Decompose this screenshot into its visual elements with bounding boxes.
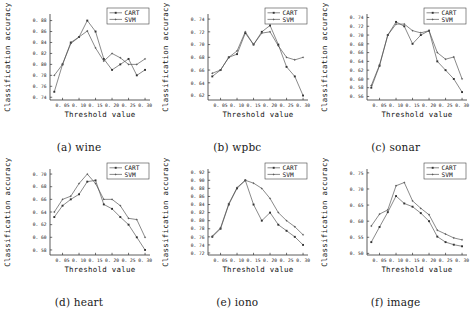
- svg-text:0. 30: 0. 30: [455, 103, 469, 108]
- svg-text:0. 88: 0. 88: [191, 186, 205, 191]
- chart-panel: 0. 720. 740. 760. 780. 800. 820. 840. 86…: [158, 155, 316, 310]
- svg-text:0. 25: 0. 25: [280, 258, 294, 263]
- svg-text:0. 62: 0. 62: [349, 68, 363, 73]
- panel-caption: (c) sonar: [317, 141, 475, 153]
- svg-text:0. 74: 0. 74: [349, 15, 363, 20]
- svg-text:0. 70: 0. 70: [191, 42, 205, 47]
- svg-text:0. 15: 0. 15: [405, 103, 419, 108]
- svg-text:0. 70: 0. 70: [33, 172, 47, 177]
- svg-text:0. 92: 0. 92: [191, 170, 205, 175]
- plot-area: 0. 620. 640. 660. 680. 700. 720. 740. 05…: [158, 0, 316, 132]
- svg-text:0. 75: 0. 75: [349, 171, 363, 176]
- svg-text:Classification accuracy: Classification accuracy: [320, 157, 329, 266]
- panel-caption: (d) heart: [0, 296, 158, 308]
- svg-text:0. 05: 0. 05: [372, 103, 386, 108]
- svg-text:SVM: SVM: [283, 16, 294, 23]
- svg-text:0. 76: 0. 76: [33, 84, 47, 89]
- svg-text:Classification accuracy: Classification accuracy: [3, 157, 12, 266]
- svg-text:0. 10: 0. 10: [230, 103, 244, 108]
- svg-text:0. 66: 0. 66: [191, 68, 205, 73]
- svg-text:0. 80: 0. 80: [191, 218, 205, 223]
- svg-text:0. 15: 0. 15: [247, 103, 261, 108]
- svg-text:0. 74: 0. 74: [33, 95, 47, 100]
- svg-text:0. 25: 0. 25: [438, 103, 452, 108]
- svg-text:0. 65: 0. 65: [349, 203, 363, 208]
- svg-text:Threshold value: Threshold value: [381, 110, 452, 119]
- svg-text:0. 70: 0. 70: [349, 33, 363, 38]
- svg-text:0. 10: 0. 10: [389, 258, 403, 263]
- svg-text:0. 84: 0. 84: [33, 40, 47, 45]
- svg-text:0. 20: 0. 20: [263, 103, 277, 108]
- svg-text:Threshold value: Threshold value: [64, 265, 135, 274]
- svg-text:0. 62: 0. 62: [191, 93, 205, 98]
- svg-text:0. 88: 0. 88: [33, 18, 47, 23]
- svg-text:0. 20: 0. 20: [105, 258, 119, 263]
- svg-text:0. 58: 0. 58: [349, 85, 363, 90]
- svg-text:0. 84: 0. 84: [191, 202, 205, 207]
- figure-grid: 0. 740. 760. 780. 800. 820. 840. 860. 88…: [0, 0, 475, 310]
- svg-text:SVM: SVM: [441, 171, 452, 178]
- plot-area: 0. 500. 550. 600. 650. 700. 750. 050. 10…: [317, 155, 475, 287]
- plot-area: 0. 580. 600. 620. 640. 660. 680. 700. 05…: [0, 155, 158, 287]
- svg-text:0. 10: 0. 10: [389, 103, 403, 108]
- svg-text:0. 82: 0. 82: [33, 51, 47, 56]
- chart-panel: 0. 500. 550. 600. 650. 700. 750. 050. 10…: [317, 155, 475, 310]
- svg-text:Classification accuracy: Classification accuracy: [320, 2, 329, 111]
- svg-text:0. 56: 0. 56: [349, 94, 363, 99]
- svg-text:0. 25: 0. 25: [280, 103, 294, 108]
- svg-text:0. 64: 0. 64: [349, 59, 363, 64]
- svg-text:SVM: SVM: [283, 171, 294, 178]
- svg-text:0. 15: 0. 15: [89, 258, 103, 263]
- svg-text:0. 86: 0. 86: [191, 194, 205, 199]
- svg-text:0. 10: 0. 10: [230, 258, 244, 263]
- svg-text:0. 20: 0. 20: [422, 258, 436, 263]
- svg-text:0. 60: 0. 60: [349, 77, 363, 82]
- svg-text:0. 15: 0. 15: [405, 258, 419, 263]
- svg-text:0. 64: 0. 64: [33, 210, 47, 215]
- svg-text:0. 20: 0. 20: [263, 258, 277, 263]
- svg-text:0. 80: 0. 80: [33, 62, 47, 67]
- svg-text:0. 30: 0. 30: [296, 258, 310, 263]
- svg-text:0. 05: 0. 05: [214, 103, 228, 108]
- svg-text:0. 74: 0. 74: [191, 243, 205, 248]
- plot-area: 0. 740. 760. 780. 800. 820. 840. 860. 88…: [0, 0, 158, 132]
- chart-panel: 0. 620. 640. 660. 680. 700. 720. 740. 05…: [158, 0, 316, 155]
- svg-text:0. 55: 0. 55: [349, 235, 363, 240]
- svg-text:0. 74: 0. 74: [191, 17, 205, 22]
- svg-text:0. 30: 0. 30: [455, 258, 469, 263]
- svg-text:0. 68: 0. 68: [33, 184, 47, 189]
- svg-text:SVM: SVM: [125, 16, 136, 23]
- svg-text:0. 20: 0. 20: [105, 103, 119, 108]
- svg-text:0. 20: 0. 20: [422, 103, 436, 108]
- svg-text:Classification accuracy: Classification accuracy: [161, 157, 170, 266]
- svg-text:0. 10: 0. 10: [72, 258, 86, 263]
- svg-text:0. 50: 0. 50: [349, 251, 363, 256]
- plot-area: 0. 560. 580. 600. 620. 640. 660. 680. 70…: [317, 0, 475, 132]
- svg-text:0. 58: 0. 58: [33, 248, 47, 253]
- svg-text:0. 30: 0. 30: [296, 103, 310, 108]
- svg-text:0. 05: 0. 05: [56, 258, 70, 263]
- plot-area: 0. 720. 740. 760. 780. 800. 820. 840. 86…: [158, 155, 316, 287]
- svg-text:Threshold value: Threshold value: [381, 265, 452, 274]
- svg-text:0. 72: 0. 72: [191, 30, 205, 35]
- chart-panel: 0. 560. 580. 600. 620. 640. 660. 680. 70…: [317, 0, 475, 155]
- svg-text:0. 15: 0. 15: [89, 103, 103, 108]
- svg-text:Threshold value: Threshold value: [64, 110, 135, 119]
- svg-text:Threshold value: Threshold value: [223, 265, 294, 274]
- panel-caption: (a) wine: [0, 141, 158, 153]
- svg-text:0. 15: 0. 15: [247, 258, 261, 263]
- svg-text:0. 05: 0. 05: [372, 258, 386, 263]
- svg-text:0. 82: 0. 82: [191, 210, 205, 215]
- svg-text:0. 60: 0. 60: [33, 235, 47, 240]
- svg-text:0. 25: 0. 25: [122, 103, 136, 108]
- svg-text:0. 86: 0. 86: [33, 29, 47, 34]
- svg-text:0. 25: 0. 25: [122, 258, 136, 263]
- svg-text:0. 25: 0. 25: [438, 258, 452, 263]
- svg-text:0. 62: 0. 62: [33, 222, 47, 227]
- svg-text:0. 30: 0. 30: [138, 258, 152, 263]
- svg-text:0. 30: 0. 30: [138, 103, 152, 108]
- svg-text:0. 70: 0. 70: [349, 187, 363, 192]
- svg-text:0. 64: 0. 64: [191, 81, 205, 86]
- svg-text:Classification accuracy: Classification accuracy: [161, 2, 170, 111]
- svg-text:SVM: SVM: [125, 171, 136, 178]
